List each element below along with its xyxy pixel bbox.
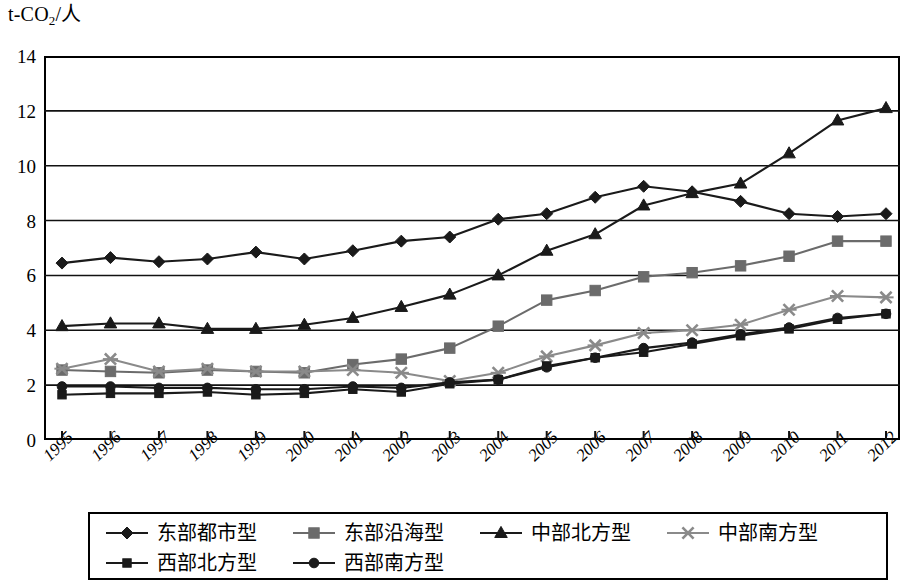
data-point — [394, 367, 409, 378]
legend-label: 东部沿海型 — [344, 523, 444, 543]
data-point — [878, 292, 893, 303]
series-1 — [57, 236, 891, 378]
data-point — [638, 272, 648, 282]
data-point — [636, 327, 651, 338]
legend-label: 中部南方型 — [718, 523, 818, 543]
legend-entry-东部都市型[interactable]: 东部都市型 — [104, 523, 257, 543]
data-point — [784, 323, 794, 333]
legend-row-0: 东部都市型东部沿海型中部北方型中部南方型 — [104, 518, 886, 548]
y-tick-label-12: 12 — [0, 102, 36, 121]
data-point — [445, 343, 455, 353]
y-tick-label-2: 2 — [0, 376, 36, 395]
legend-marker-shape — [121, 527, 133, 539]
data-point — [590, 285, 600, 295]
data-point — [735, 195, 747, 207]
data-point — [539, 351, 554, 362]
data-point — [638, 180, 650, 192]
data-point — [396, 354, 406, 364]
data-point — [492, 269, 505, 280]
chart-legend: 东部都市型东部沿海型中部北方型中部南方型西部北方型西部南方型 — [88, 512, 888, 580]
legend-marker-square-icon — [291, 524, 337, 542]
y-axis-unit-label: t-CO2/人 — [8, 4, 81, 27]
data-point — [444, 231, 456, 243]
data-point — [783, 147, 796, 158]
legend-marker-shape — [309, 528, 319, 538]
data-point — [736, 330, 746, 340]
legend-marker-shape — [309, 558, 319, 568]
y-axis-unit-main: t-CO — [8, 3, 49, 25]
data-point — [154, 383, 164, 393]
data-point — [881, 236, 891, 246]
data-point — [445, 378, 455, 388]
data-point — [588, 340, 603, 351]
data-point — [781, 304, 796, 315]
legend-label: 西部南方型 — [344, 553, 444, 573]
legend-marker-circle-icon — [291, 554, 337, 572]
legend-marker-shape — [495, 526, 508, 537]
data-point — [493, 321, 503, 331]
y-tick-label-10: 10 — [0, 157, 36, 176]
data-point — [541, 208, 553, 220]
data-point — [590, 353, 600, 363]
y-tick-label-14: 14 — [0, 47, 36, 66]
series-line — [62, 296, 886, 381]
data-point — [881, 309, 891, 319]
legend-row-1: 西部北方型西部南方型 — [104, 548, 886, 578]
series-0 — [56, 180, 892, 269]
series-layer — [54, 102, 893, 399]
data-point — [396, 383, 406, 393]
data-point — [589, 191, 601, 203]
data-point — [203, 383, 213, 393]
legend-entry-东部沿海型[interactable]: 东部沿海型 — [291, 523, 444, 543]
legend-entry-中部南方型[interactable]: 中部南方型 — [665, 523, 818, 543]
line-chart: t-CO2/人 02468101214 19951996199719981999… — [0, 0, 915, 586]
y-axis-unit-subscript: 2 — [49, 13, 56, 28]
data-point — [880, 208, 892, 220]
data-point — [300, 384, 310, 394]
series-line — [62, 186, 886, 263]
plot-canvas — [44, 56, 900, 440]
data-point — [687, 338, 697, 348]
data-point — [784, 251, 794, 261]
data-point — [153, 317, 166, 328]
data-point — [57, 382, 67, 392]
legend-marker-shape — [123, 559, 131, 567]
data-point — [104, 317, 117, 328]
series-2 — [56, 102, 893, 334]
legend-marker-triangle-icon — [478, 524, 524, 542]
data-point — [542, 295, 552, 305]
y-axis-unit-tail: /人 — [56, 3, 82, 25]
legend-label: 东部都市型 — [157, 523, 257, 543]
y-tick-label-0: 0 — [0, 431, 36, 450]
legend-label: 中部北方型 — [531, 523, 631, 543]
legend-entry-西部南方型[interactable]: 西部南方型 — [291, 553, 444, 573]
legend-label: 西部北方型 — [157, 553, 257, 573]
y-tick-label-4: 4 — [0, 321, 36, 340]
legend-entry-西部北方型[interactable]: 西部北方型 — [104, 553, 257, 573]
legend-marker-diamond-icon — [104, 524, 150, 542]
x-axis-ticks — [62, 431, 886, 440]
data-point — [639, 343, 649, 353]
data-point — [589, 228, 602, 239]
data-point — [104, 252, 116, 264]
data-point — [493, 375, 503, 385]
legend-entry-中部北方型[interactable]: 中部北方型 — [478, 523, 631, 543]
data-point — [298, 253, 310, 265]
data-point — [687, 267, 697, 277]
data-point — [201, 253, 213, 265]
data-point — [733, 319, 748, 330]
data-point — [833, 313, 843, 323]
data-point — [734, 177, 747, 188]
y-tick-label-6: 6 — [0, 266, 36, 285]
data-point — [832, 236, 842, 246]
data-point — [347, 245, 359, 257]
data-point — [56, 257, 68, 269]
data-point — [783, 208, 795, 220]
data-point — [735, 261, 745, 271]
data-point — [105, 366, 115, 376]
legend-marker-shape — [680, 527, 695, 538]
data-point — [685, 325, 700, 336]
data-point — [348, 382, 358, 392]
data-point — [880, 102, 893, 113]
data-point — [250, 246, 262, 258]
